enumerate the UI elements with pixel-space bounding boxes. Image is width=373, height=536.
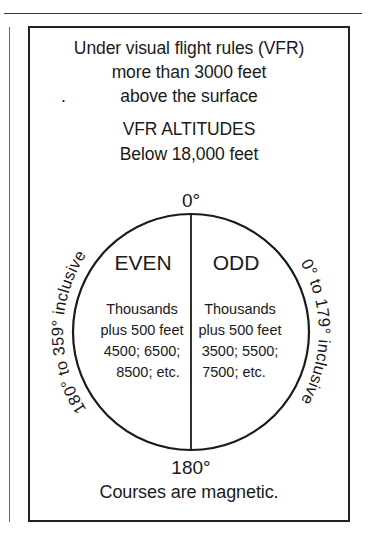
figure-title: VFR ALTITUDES Below 18,000 feet bbox=[30, 117, 348, 167]
left-detail-line-3: 4500; 6500; bbox=[104, 343, 181, 359]
left-detail-line-1: Thousands bbox=[106, 301, 178, 317]
header-line-3-wrapper: . above the surface bbox=[30, 84, 348, 108]
right-arc-range-textpath: 0° to 179° inclusive bbox=[298, 256, 334, 409]
header-line-3: above the surface bbox=[120, 86, 257, 106]
header-line-1: Under visual flight rules (VFR) bbox=[30, 36, 348, 60]
page-title: VFR ALTITUDES bbox=[30, 117, 348, 142]
right-detail-line-2: plus 500 feet bbox=[198, 322, 281, 338]
figure-footer: Courses are magnetic. bbox=[30, 480, 348, 504]
right-detail-line-1: Thousands bbox=[204, 301, 276, 317]
stray-period-mark: . bbox=[61, 84, 66, 108]
header-line-2: more than 3000 feet bbox=[30, 60, 348, 84]
page-gutter-rule bbox=[9, 27, 10, 522]
left-arc-range-textpath: 180° to 359° inclusive bbox=[48, 247, 89, 418]
right-arc-range-label: 0° to 179° inclusive bbox=[298, 256, 334, 409]
right-detail-line-3: 3500; 5500; bbox=[202, 343, 279, 359]
degree-label-180: 180° bbox=[171, 457, 210, 478]
page-top-rule bbox=[4, 13, 362, 14]
figure-header: Under visual flight rules (VFR) more tha… bbox=[30, 36, 348, 108]
left-half-heading: EVEN bbox=[114, 251, 171, 274]
right-detail-line-4: 7500; etc. bbox=[202, 364, 266, 380]
right-half-heading: ODD bbox=[213, 251, 260, 274]
compass-circle bbox=[73, 214, 309, 450]
vfr-altitudes-figure: Under visual flight rules (VFR) more tha… bbox=[28, 26, 350, 522]
left-detail-line-4: 8500; etc. bbox=[116, 364, 180, 380]
left-arc-range-label: 180° to 359° inclusive bbox=[48, 247, 89, 418]
degree-label-000: 0° bbox=[182, 190, 200, 211]
page-subtitle: Below 18,000 feet bbox=[30, 142, 348, 167]
footer-note: Courses are magnetic. bbox=[30, 480, 348, 504]
left-detail-line-2: plus 500 feet bbox=[100, 322, 183, 338]
